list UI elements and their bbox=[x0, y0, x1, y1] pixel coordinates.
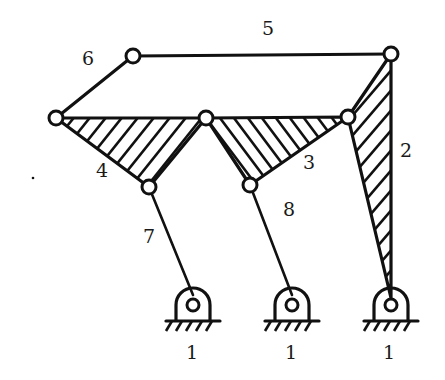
label-link-5: 5 bbox=[262, 17, 274, 39]
label-ground-middle: 1 bbox=[285, 341, 297, 363]
link-6 bbox=[56, 56, 133, 118]
label-ground-right: 1 bbox=[383, 341, 395, 363]
joint-f bbox=[142, 180, 156, 194]
joint-a bbox=[49, 111, 63, 125]
label-link-6: 6 bbox=[82, 47, 94, 69]
label-link-8: 8 bbox=[283, 198, 295, 220]
stray-mark bbox=[32, 177, 35, 180]
label-link-4: 4 bbox=[96, 159, 108, 181]
joint-c bbox=[384, 47, 398, 61]
label-link-7: 7 bbox=[143, 225, 155, 247]
label-ground-left: 1 bbox=[186, 341, 198, 363]
joint-e bbox=[341, 110, 355, 124]
linkage-diagram: 5 6 4 3 2 7 8 1 1 1 bbox=[0, 0, 445, 380]
label-link-2: 2 bbox=[400, 139, 412, 161]
joint-g bbox=[243, 178, 257, 192]
link-7 bbox=[149, 187, 193, 295]
joint-b bbox=[126, 49, 140, 63]
joint-d bbox=[199, 111, 213, 125]
link-5 bbox=[133, 54, 391, 56]
label-link-3: 3 bbox=[303, 151, 315, 173]
